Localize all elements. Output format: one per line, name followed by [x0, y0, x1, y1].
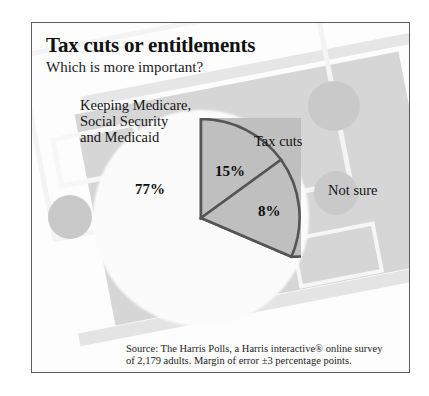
value-tax-cuts-percent: 15% [215, 163, 245, 180]
label-tax-cuts: Tax cuts [254, 134, 303, 150]
dollar-bill-oval-right [308, 81, 360, 131]
page-subtitle: Which is more important? [46, 59, 203, 76]
chart-page: Tax cuts or entitlements Which is more i… [0, 0, 429, 396]
label-keeping-medicare: Keeping Medicare, Social Security and Me… [80, 97, 191, 145]
label-not-sure: Not sure [328, 183, 378, 199]
value-not-sure-percent: 8% [258, 203, 281, 220]
value-medicare-percent: 77% [135, 181, 165, 198]
source-line-1: Source: The Harris Polls, a Harris inter… [126, 343, 398, 355]
dollar-bill-oval-left [48, 195, 92, 239]
chart-frame: Tax cuts or entitlements Which is more i… [31, 22, 410, 373]
source-note: Source: The Harris Polls, a Harris inter… [126, 343, 398, 366]
page-title: Tax cuts or entitlements [46, 33, 255, 58]
source-line-2: of 2,179 adults. Margin of error ±3 perc… [126, 355, 398, 367]
